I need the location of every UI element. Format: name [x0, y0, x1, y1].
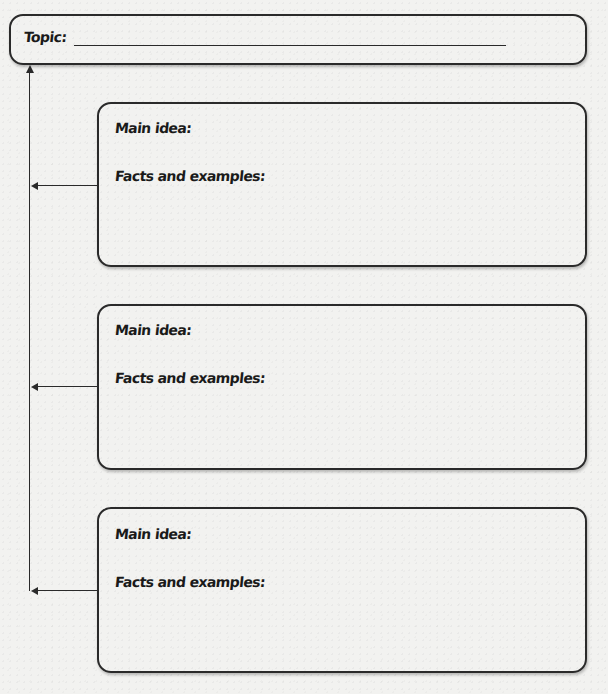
connector-vertical-line [29, 70, 30, 591]
connector-line-1 [36, 185, 97, 186]
arrow-left-icon [31, 383, 38, 391]
topic-label: Topic: [23, 29, 67, 45]
connector-line-2 [36, 386, 97, 387]
arrow-left-icon [31, 587, 38, 595]
connector-line-3 [36, 590, 97, 591]
facts-label-1: Facts and examples: [114, 168, 266, 184]
topic-box [9, 14, 587, 65]
arrow-up-icon [26, 65, 34, 73]
main-idea-label-3: Main idea: [114, 526, 192, 542]
main-idea-label-1: Main idea: [114, 120, 192, 136]
arrow-left-icon [31, 182, 38, 190]
main-idea-label-2: Main idea: [114, 322, 192, 338]
facts-label-3: Facts and examples: [114, 574, 266, 590]
topic-answer-line[interactable] [74, 45, 506, 46]
facts-label-2: Facts and examples: [114, 370, 266, 386]
